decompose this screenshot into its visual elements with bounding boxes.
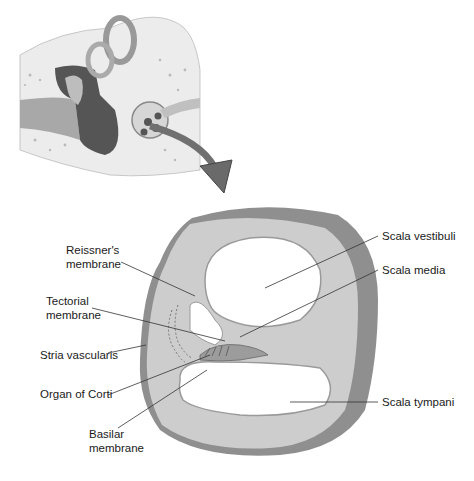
label-organ-of-corti: Organ of Corti: [40, 387, 112, 401]
label-basilar-line2: membrane: [89, 441, 144, 455]
label-tectorial-line1: Tectorial: [46, 294, 101, 308]
ear-inset-illustration: [20, 17, 200, 176]
label-tectorial-membrane: Tectorial membrane: [46, 294, 101, 322]
label-scala-tympani: Scala tympani: [382, 395, 454, 409]
label-scala-media: Scala media: [382, 263, 445, 277]
label-basilar-membrane: Basilar membrane: [89, 427, 144, 455]
label-tectorial-line2: membrane: [46, 308, 101, 322]
label-scala-vestibuli: Scala vestibuli: [382, 229, 456, 243]
label-stria-vascularis: Stria vascularis: [40, 348, 118, 362]
label-reissners-line1: Reissner's: [66, 243, 121, 257]
label-basilar-line1: Basilar: [89, 427, 144, 441]
label-reissners-membrane: Reissner's membrane: [66, 243, 121, 271]
cochlea-cross-section: [140, 207, 378, 456]
label-reissners-line2: membrane: [66, 257, 121, 271]
